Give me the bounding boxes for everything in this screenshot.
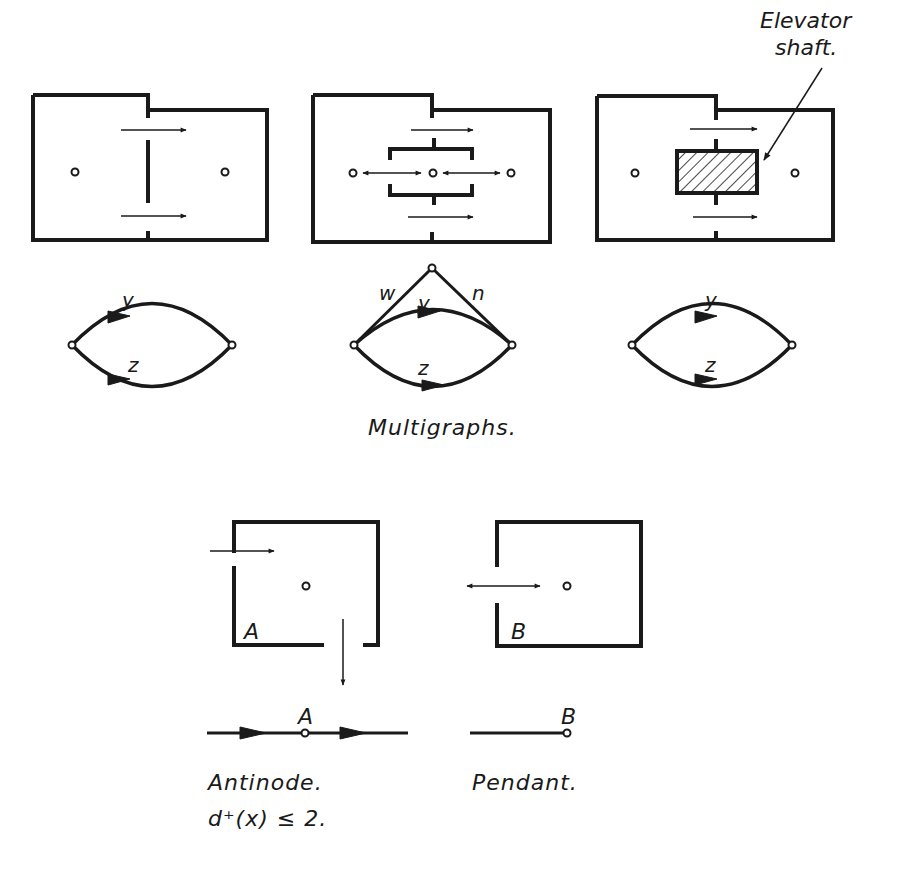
graph-node xyxy=(229,342,236,349)
room-node xyxy=(564,583,571,590)
wall-outline-left xyxy=(33,95,148,118)
multigraph-2 xyxy=(351,265,516,392)
graph-node xyxy=(69,342,76,349)
room-node-right xyxy=(222,169,229,176)
room-node-right xyxy=(792,170,799,177)
graph-node xyxy=(351,342,358,349)
antinode-node xyxy=(302,730,309,737)
room-node-left xyxy=(632,170,639,177)
graph2-label-n: n xyxy=(472,283,485,303)
room-b-label: B xyxy=(511,621,527,643)
room-b-plan xyxy=(467,522,641,646)
corridor-node xyxy=(430,170,437,177)
graph-node-apex xyxy=(429,265,436,272)
antinode-formula: d⁺(x) ≤ 2. xyxy=(208,808,327,830)
pendant-node xyxy=(564,730,571,737)
graph3-label-y: y xyxy=(705,290,717,310)
elevator-shaft xyxy=(677,151,757,193)
graph2-label-z: z xyxy=(418,358,429,378)
antinode-caption: Antinode. xyxy=(208,772,323,794)
edge-y xyxy=(72,304,232,346)
graph-node xyxy=(629,342,636,349)
elevator-label-line1: Elevator xyxy=(760,10,851,32)
node-b-label: B xyxy=(561,706,577,728)
corridor-wall-bottom xyxy=(390,184,472,195)
graph1-label-z: z xyxy=(128,355,139,375)
elevator-label-line2: shaft. xyxy=(775,37,837,59)
multigraphs-caption: Multigraphs. xyxy=(368,417,517,439)
graph3-label-z: z xyxy=(705,355,716,375)
room-a-plan xyxy=(210,522,378,685)
elevator-pointer-arrow xyxy=(764,68,822,160)
node-a-label: A xyxy=(298,706,314,728)
room-node-right xyxy=(508,170,515,177)
graph-node xyxy=(789,342,796,349)
room-a-label: A xyxy=(244,621,260,643)
graph-node xyxy=(509,342,516,349)
room-node xyxy=(303,583,310,590)
graph2-label-w: w xyxy=(379,283,395,303)
graph2-label-y: y xyxy=(418,293,430,313)
edge-z xyxy=(354,345,512,387)
room-node-left xyxy=(350,170,357,177)
pendant-caption: Pendant. xyxy=(472,772,578,794)
floorplan-panel-1 xyxy=(33,95,267,240)
graph1-label-y: y xyxy=(122,290,134,310)
multigraph-1 xyxy=(69,304,236,387)
room-node-left xyxy=(72,169,79,176)
edge-y xyxy=(354,310,512,346)
pendant-graph xyxy=(470,730,571,737)
floorplan-panel-3 xyxy=(597,68,833,240)
floorplan-panel-2 xyxy=(313,95,550,242)
corridor-wall-top xyxy=(390,149,472,160)
edge-z xyxy=(72,345,232,387)
